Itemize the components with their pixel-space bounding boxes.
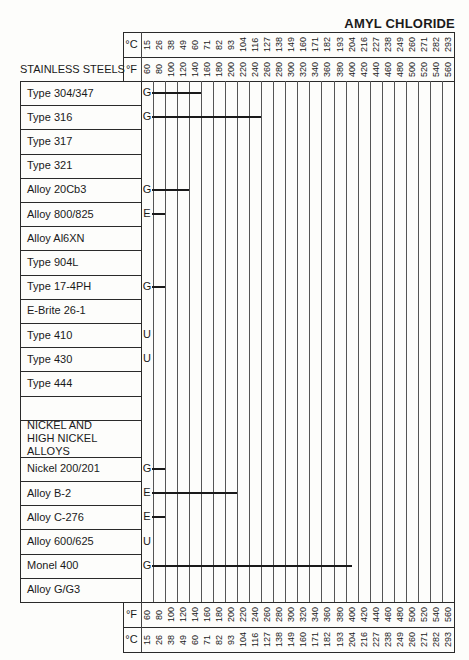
tick-f-bottom: 140 [189, 603, 201, 626]
tick-c-top: 104 [237, 33, 249, 56]
tick-f-bottom: 480 [394, 603, 406, 626]
grid-line [213, 81, 214, 602]
tick-c-bottom: 82 [213, 628, 225, 651]
tick-c-top: 271 [418, 33, 430, 56]
tick-c-top: 93 [225, 33, 237, 56]
tick-f-top: 120 [177, 58, 189, 80]
tick-c-top: 193 [334, 33, 346, 56]
tick-f-top: 380 [334, 58, 346, 80]
rating-letter: G [142, 86, 152, 98]
material-label: Type 316 [20, 105, 141, 130]
material-label: Type 317 [20, 129, 141, 154]
tick-f-bottom: 560 [442, 603, 454, 626]
tick-f-bottom: 460 [382, 603, 394, 626]
tick-f-bottom: 500 [406, 603, 418, 626]
tick-c-bottom: 104 [237, 628, 249, 651]
tick-c-top: 282 [430, 33, 442, 56]
tick-f-bottom: 220 [237, 603, 249, 626]
tick-c-top: 116 [249, 33, 261, 56]
tick-c-bottom: 238 [382, 628, 394, 651]
material-label: Alloy 800/825 [20, 202, 141, 227]
material-label: E-Brite 26-1 [20, 299, 141, 324]
tick-f-top: 240 [249, 58, 261, 80]
tick-f-bottom: 440 [370, 603, 382, 626]
tick-f-bottom: 200 [225, 603, 237, 626]
tick-c-bottom: 227 [370, 628, 382, 651]
tick-c-bottom: 138 [273, 628, 285, 651]
tick-c-bottom: 249 [394, 628, 406, 651]
tick-f-top: 540 [430, 58, 442, 80]
tick-c-bottom: 171 [309, 628, 321, 651]
rating-letter: U [142, 535, 152, 547]
tick-f-bottom: 260 [261, 603, 273, 626]
tick-f-bottom: 360 [321, 603, 333, 626]
tick-f-top: 460 [382, 58, 394, 80]
grid-line [382, 81, 383, 602]
grid-line [358, 81, 359, 602]
tick-f-bottom: 60 [141, 603, 153, 626]
grid-line [165, 81, 166, 602]
tick-c-bottom: 293 [442, 628, 454, 651]
material-label: Monel 400 [20, 554, 141, 579]
tick-c-bottom: 116 [249, 628, 261, 651]
tick-c-bottom: 271 [418, 628, 430, 651]
tick-c-top: 216 [358, 33, 370, 56]
tick-c-top: 227 [370, 33, 382, 56]
tick-c-top: 160 [297, 33, 309, 56]
grid-line [394, 81, 395, 602]
tick-f-bottom: 400 [346, 603, 358, 626]
tick-f-bottom: 280 [273, 603, 285, 626]
tick-f-top: 200 [225, 58, 237, 80]
tick-c-top: 260 [406, 33, 418, 56]
tick-f-bottom: 420 [358, 603, 370, 626]
tick-c-top: 138 [273, 33, 285, 56]
tick-f-bottom: 240 [249, 603, 261, 626]
rating-letter: G [142, 462, 152, 474]
tick-c-bottom: 204 [346, 628, 358, 651]
tick-f-top: 400 [346, 58, 358, 80]
tick-c-bottom: 160 [297, 628, 309, 651]
tick-f-top: 340 [309, 58, 321, 80]
tick-c-bottom: 193 [334, 628, 346, 651]
rating-bar [152, 116, 262, 118]
tick-f-top: 360 [321, 58, 333, 80]
tick-f-top: 520 [418, 58, 430, 80]
unit-c-top: °C [123, 38, 140, 50]
material-label: Type 430 [20, 347, 141, 372]
grid-line [285, 81, 286, 602]
unit-f-bottom: °F [123, 608, 140, 620]
grid-line [153, 81, 154, 602]
unit-c-bottom: °C [123, 633, 140, 645]
rating-letter: E [142, 207, 152, 219]
tick-f-top: 260 [261, 58, 273, 80]
rating-bar [152, 92, 201, 94]
material-label: Type 321 [20, 154, 141, 179]
rating-bar [152, 468, 165, 470]
grid-line [454, 81, 455, 602]
grid-line [297, 81, 298, 602]
material-label: Alloy C-276 [20, 505, 141, 530]
grid-line [334, 81, 335, 602]
rating-bar [152, 492, 237, 494]
grid-line [346, 81, 347, 602]
material-label: Alloy 600/625 [20, 529, 141, 554]
tick-c-top: 49 [177, 33, 189, 56]
tick-f-bottom: 380 [334, 603, 346, 626]
tick-f-top: 480 [394, 58, 406, 80]
chart-title: AMYL CHLORIDE [344, 16, 455, 31]
tick-c-top: 60 [189, 33, 201, 56]
material-label: Type 304/347 [20, 81, 141, 106]
tick-f-bottom: 80 [153, 603, 165, 626]
material-label: Type 410 [20, 323, 141, 348]
tick-f-top: 300 [285, 58, 297, 80]
material-label: Alloy B-2 [20, 481, 141, 506]
grid-line [189, 81, 190, 602]
rating-letter: G [142, 559, 152, 571]
tick-c-top: 249 [394, 33, 406, 56]
tick-c-top: 238 [382, 33, 394, 56]
grid-line [370, 81, 371, 602]
rating-letter: G [142, 280, 152, 292]
tick-f-top: 80 [153, 58, 165, 80]
tick-c-bottom: 216 [358, 628, 370, 651]
tick-f-top: 220 [237, 58, 249, 80]
